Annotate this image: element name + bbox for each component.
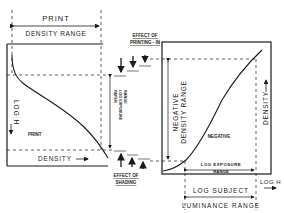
luminance-label-1: LOG SUBJECT (193, 187, 249, 194)
printing-in-label-2: PRINTING - IN (130, 40, 160, 45)
print-range-label-2: DENSITY RANGE (26, 30, 87, 37)
shading-label-1: EFFECT OF (114, 173, 139, 178)
print-panel: PRINT DENSITY RANGE LOG H PRINT DENSITY … (7, 10, 127, 166)
print-curve-label: PRINT (28, 132, 42, 137)
tone-reproduction-diagram: PRINT DENSITY RANGE LOG H PRINT DENSITY … (0, 0, 284, 213)
log-exposure-label-1: LOG EXPOSURE (201, 162, 241, 167)
print-range-label-1: PRINT (42, 14, 70, 23)
neg-x-axis-label: LOG H (260, 179, 281, 185)
log-exposure-label-2: RANGE (213, 169, 229, 174)
neg-range-label-2: DENSITY RANGE (180, 80, 187, 143)
neg-range-label-1: NEGATIVE (172, 93, 179, 132)
neg-y-axis-label: DENSITY (262, 91, 269, 125)
print-x-axis-label: DENSITY (38, 155, 72, 162)
printing-in-label-1: EFFECT OF (133, 33, 158, 38)
print-curve (12, 55, 108, 158)
shading-label-2: SHADING (116, 180, 137, 185)
negative-curve-label: NEGATIVE (208, 134, 231, 139)
paper-range-label-2: LOG EXPOSURE (118, 90, 122, 121)
print-y-axis-label: LOG H (13, 100, 20, 125)
paper-range-label-1: PAPER (113, 90, 117, 103)
paper-range-label-3: RANGE (123, 90, 127, 104)
luminance-label-2: LUMINANCE RANGE (182, 202, 260, 209)
negative-panel: NEGATIVE DENSITY RANGE NEGATIVE DENSITY … (150, 42, 281, 210)
